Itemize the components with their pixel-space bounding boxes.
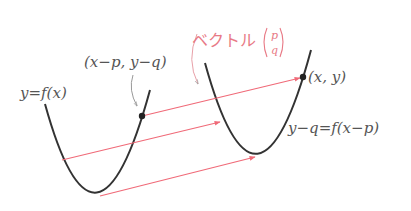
moved-curve-label: y−q=f(x−p) xyxy=(287,119,379,137)
vector-p-component: p xyxy=(271,29,278,42)
original-point-leader xyxy=(131,75,137,106)
moved-point xyxy=(300,74,306,80)
vector-word-label: ベクトル xyxy=(192,31,256,50)
original-curve-label: y=f(x) xyxy=(19,84,67,102)
translation-arrow-vertex xyxy=(100,157,255,196)
original-point xyxy=(139,113,145,119)
original-point-label: (x−p, y−q) xyxy=(84,53,167,71)
translation-arrow-middle xyxy=(62,122,220,160)
translation-diagram: y=f(x) (x−p, y−q) (x, y) y−q=f(x−p) ベクトル… xyxy=(0,0,411,211)
original-parabola xyxy=(45,90,150,193)
vector-left-paren xyxy=(264,28,267,57)
moved-point-label: (x, y) xyxy=(308,68,346,86)
vector-right-paren xyxy=(280,28,283,57)
vector-q-component: q xyxy=(271,44,278,57)
translated-parabola xyxy=(205,50,311,154)
